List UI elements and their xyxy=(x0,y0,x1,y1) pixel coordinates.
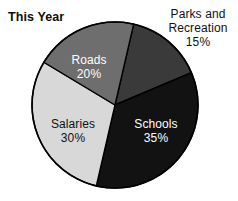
slice-label-salaries-name: Salaries xyxy=(37,118,109,132)
slice-label-salaries: Salaries 30% xyxy=(37,118,109,146)
slice-label-schools-name: Schools xyxy=(121,118,191,132)
slice-value-roads: 20% xyxy=(58,68,120,82)
pie-chart-figure: This Year Parks and Recreation 15% Roads… xyxy=(0,0,238,201)
slice-value-salaries: 30% xyxy=(37,132,109,146)
slice-label-schools: Schools 35% xyxy=(121,118,191,146)
slice-value-schools: 35% xyxy=(121,132,191,146)
slice-label-roads: Roads 20% xyxy=(58,54,120,82)
slice-label-roads-name: Roads xyxy=(58,54,120,68)
slice-value-parks: 15% xyxy=(160,36,236,50)
slice-label-parks-line1: Parks and xyxy=(160,8,236,22)
slice-label-parks-and-recreation: Parks and Recreation 15% xyxy=(160,8,236,50)
slice-label-parks-line2: Recreation xyxy=(160,22,236,36)
